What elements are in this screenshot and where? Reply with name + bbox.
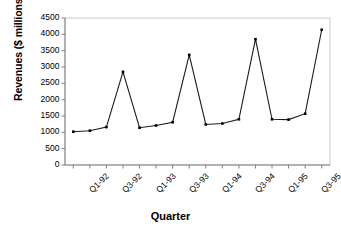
plot-area bbox=[0, 0, 341, 239]
data-point-marker bbox=[238, 118, 241, 121]
data-point-marker bbox=[105, 126, 108, 129]
data-point-marker bbox=[155, 124, 158, 127]
data-point-marker bbox=[188, 54, 191, 57]
data-point-marker bbox=[89, 129, 92, 132]
data-point-marker bbox=[287, 118, 290, 121]
data-point-marker bbox=[320, 28, 323, 31]
data-point-marker bbox=[171, 121, 174, 124]
data-point-marker bbox=[304, 112, 307, 115]
data-point-marker bbox=[72, 130, 75, 133]
x-tick-marks bbox=[73, 165, 321, 169]
data-point-marker bbox=[138, 126, 141, 129]
data-point-marker bbox=[221, 122, 224, 125]
y-tick-marks bbox=[62, 18, 66, 165]
data-point-marker bbox=[271, 118, 274, 121]
data-point-marker bbox=[122, 71, 125, 74]
data-point-marker bbox=[254, 38, 257, 41]
data-point-marker bbox=[204, 123, 207, 126]
series-line bbox=[73, 30, 321, 132]
revenue-line-chart: Revenues ($ millions) Quarter 0500100015… bbox=[0, 0, 341, 239]
